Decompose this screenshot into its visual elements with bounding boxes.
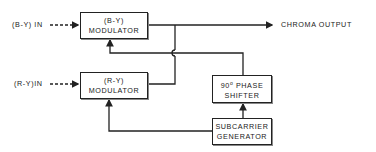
phase-shifter-line2: SHIFTER xyxy=(225,91,260,101)
ry-input-label: (R-Y)IN xyxy=(14,79,43,88)
phase-to-by-line xyxy=(110,40,243,75)
ry-modulator-block: (R-Y) MODULATOR xyxy=(80,72,148,99)
chroma-output-label: CHROMA OUTPUT xyxy=(281,20,352,29)
ry-output-line xyxy=(148,56,175,84)
ry-modulator-line2: MODULATOR xyxy=(89,86,140,96)
by-modulator-block: (B-Y) MODULATOR xyxy=(80,12,148,39)
by-modulator-line1: (B-Y) xyxy=(104,16,124,26)
sub-to-ry-line xyxy=(109,100,212,131)
phase-shifter-line1: 90o PHASE xyxy=(221,78,264,91)
by-modulator-line2: MODULATOR xyxy=(89,26,140,36)
ry-modulator-line1: (R-Y) xyxy=(104,76,124,86)
subcarrier-generator-line2: GENERATOR xyxy=(217,132,267,142)
subcarrier-generator-line1: SUBCARRIER xyxy=(215,122,268,132)
phase-shifter-block: 90o PHASE SHIFTER xyxy=(212,75,272,103)
subcarrier-generator-block: SUBCARRIER GENERATOR xyxy=(212,118,272,145)
by-input-label: (B-Y) IN xyxy=(12,20,43,29)
